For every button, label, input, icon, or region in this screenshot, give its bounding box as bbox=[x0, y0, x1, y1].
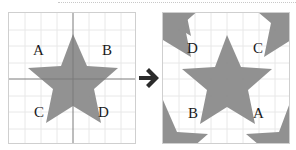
label-c: C bbox=[34, 105, 44, 120]
label-b: B bbox=[188, 106, 198, 121]
dotted-divider bbox=[58, 2, 296, 3]
label-d: D bbox=[187, 41, 198, 56]
label-a: A bbox=[253, 106, 264, 121]
label-b: B bbox=[102, 43, 112, 58]
label-a: A bbox=[33, 43, 44, 58]
right-panel-rearranged-tile: D C B A bbox=[162, 12, 290, 144]
left-panel-original-tile: A B C D bbox=[8, 12, 136, 144]
left-grid-with-star bbox=[9, 13, 136, 144]
right-grid-with-stars bbox=[163, 13, 290, 144]
label-d: D bbox=[98, 105, 109, 120]
label-c: C bbox=[253, 41, 263, 56]
corner-star-top-left bbox=[163, 13, 208, 57]
right-arrow-icon bbox=[137, 66, 161, 90]
